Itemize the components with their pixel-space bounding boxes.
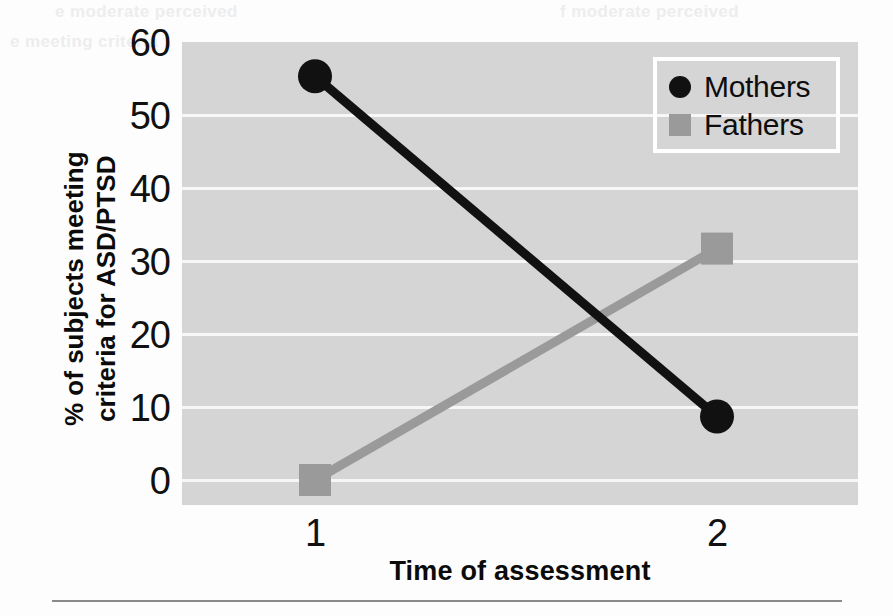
gridline xyxy=(182,406,858,409)
x-axis-title: Time of assessment xyxy=(182,556,858,587)
y-tick-label-60: 60 xyxy=(90,22,170,65)
legend-label: Fathers xyxy=(704,110,804,140)
gridline xyxy=(182,187,858,190)
x-tick-label-1: 1 xyxy=(285,512,345,555)
gridline xyxy=(182,260,858,263)
y-axis-title-line1: % of subjects meeting xyxy=(59,79,91,499)
y-axis-title: % of subjects meeting criteria for ASD/P… xyxy=(59,79,122,499)
scan-ghost-text-2: f moderate perceived xyxy=(560,2,739,22)
chart-legend: Mothers Fathers xyxy=(653,57,840,153)
scan-ghost-text-1: e moderate perceived xyxy=(55,2,238,22)
gridline xyxy=(182,333,858,336)
circle-marker-icon xyxy=(669,76,691,98)
plot-area: Mothers Fathers xyxy=(182,42,858,505)
square-marker-icon xyxy=(669,114,691,136)
figure-chart: e moderate perceived f moderate perceive… xyxy=(0,0,893,616)
legend-entry-fathers: Fathers xyxy=(669,106,804,144)
gridline xyxy=(182,479,858,482)
y-axis-title-line2: criteria for ASD/PTSD xyxy=(91,79,123,499)
page-divider-rule xyxy=(52,600,842,602)
legend-label: Mothers xyxy=(704,72,810,102)
legend-entry-mothers: Mothers xyxy=(669,68,810,106)
x-tick-label-2: 2 xyxy=(687,512,747,555)
